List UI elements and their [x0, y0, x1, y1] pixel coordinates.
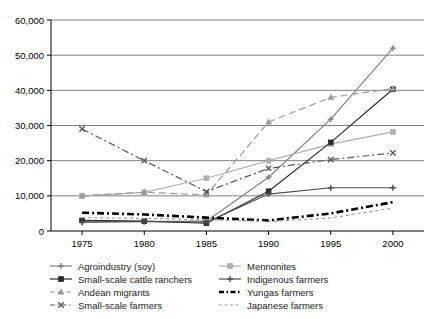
- series-line: [82, 202, 393, 220]
- series-andean-migrants: [79, 86, 395, 198]
- data-point-marker: [390, 150, 395, 155]
- data-point-marker: [392, 187, 394, 189]
- legend-label: Indigenous farmers: [247, 274, 329, 285]
- data-point-marker: [266, 166, 271, 171]
- data-point-marker: [267, 193, 269, 195]
- y-tick-label: 30,000: [15, 120, 44, 131]
- x-tick-label: 1975: [72, 238, 93, 249]
- series-line: [82, 132, 393, 196]
- data-point-marker: [229, 278, 231, 280]
- data-point-marker: [392, 47, 394, 49]
- legend-item-yungas-farmers[interactable]: Yungas farmers: [219, 287, 314, 298]
- legend-item-small-scale-cattle-ranchers[interactable]: Small-scale cattle ranchers: [50, 274, 192, 285]
- series-line: [82, 89, 393, 196]
- legend-label: Agroindustry (soy): [78, 261, 155, 272]
- legend-item-small-scale-farmers[interactable]: Small-scale farmers: [50, 300, 162, 311]
- y-tick-label: 50,000: [15, 50, 44, 61]
- legend-item-andean-migrants[interactable]: Andean migrants: [50, 287, 150, 298]
- data-series-layer: [79, 45, 396, 226]
- data-point-marker: [391, 129, 396, 134]
- x-axis-tick-labels: 197519801985199019952000: [72, 238, 404, 249]
- legend-item-mennonites[interactable]: Mennonites: [219, 261, 296, 272]
- data-point-marker: [266, 158, 271, 163]
- data-point-marker: [81, 221, 83, 223]
- legend-label: Yungas farmers: [247, 287, 314, 298]
- y-tick-label: 10,000: [15, 190, 44, 201]
- legend-label: Japanese farmers: [247, 300, 323, 311]
- legend-label: Andean migrants: [78, 287, 150, 298]
- y-tick-label: 20,000: [15, 155, 44, 166]
- x-tick-label: 1980: [134, 238, 155, 249]
- data-point-marker: [330, 187, 332, 189]
- data-point-marker: [143, 220, 145, 222]
- data-point-marker: [59, 277, 64, 282]
- data-point-marker: [328, 140, 333, 145]
- legend-label: Small-scale farmers: [78, 300, 162, 311]
- y-tick-label: 40,000: [15, 85, 44, 96]
- data-point-marker: [228, 264, 233, 269]
- data-point-marker: [204, 176, 209, 181]
- series-yungas-farmers: [82, 202, 393, 220]
- x-tick-label: 2000: [382, 238, 403, 249]
- axes: [47, 20, 424, 235]
- data-point-marker: [60, 265, 62, 267]
- data-point-marker: [205, 221, 207, 223]
- series-small-scale-cattle-ranchers: [80, 87, 396, 226]
- x-tick-label: 1990: [258, 238, 279, 249]
- legend-item-japanese-farmers[interactable]: Japanese farmers: [219, 300, 323, 311]
- y-tick-label: 0: [39, 226, 44, 237]
- legend-item-indigenous-farmers[interactable]: Indigenous farmers: [219, 274, 329, 285]
- series-agroindustry-soy: [79, 45, 396, 225]
- x-tick-label: 1995: [320, 238, 341, 249]
- data-point-marker: [79, 126, 84, 131]
- data-point-marker: [330, 118, 332, 120]
- x-tick-label: 1985: [196, 238, 217, 249]
- series-line: [82, 89, 393, 223]
- legend-label: Mennonites: [247, 261, 296, 272]
- y-axis-tick-labels: 010,00020,00030,00040,00050,00060,000: [15, 15, 44, 237]
- chart-legend: Agroindustry (soy)MennonitesSmall-scale …: [50, 261, 329, 311]
- legend-label: Small-scale cattle ranchers: [78, 274, 192, 285]
- data-point-marker: [267, 176, 269, 178]
- line-chart: 010,00020,00030,00040,00050,00060,000 19…: [0, 0, 435, 319]
- legend-item-agroindustry-soy[interactable]: Agroindustry (soy): [50, 261, 155, 272]
- y-tick-label: 60,000: [15, 15, 44, 26]
- chart-canvas: 010,00020,00030,00040,00050,00060,000 19…: [0, 0, 435, 319]
